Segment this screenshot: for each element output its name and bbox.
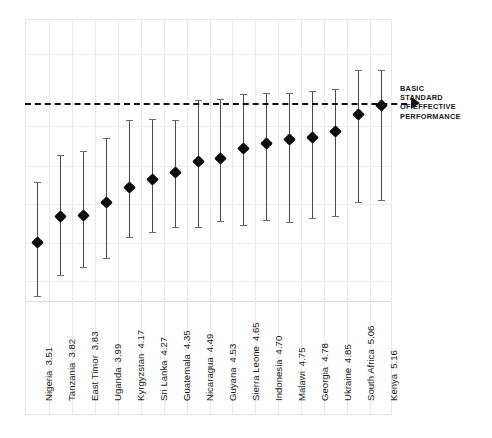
category-label-slot: Indonesia4.70 <box>255 308 278 414</box>
annotation-line-1: BASIC <box>400 84 492 93</box>
error-bar-cap-bottom <box>57 275 64 276</box>
data-point-marker[interactable] <box>169 167 182 180</box>
annotation-line-3: OF EFFECTIVE <box>400 102 492 111</box>
data-point-marker[interactable] <box>192 155 205 168</box>
data-point-marker[interactable] <box>306 131 319 144</box>
error-bar <box>289 93 290 222</box>
error-bar-cap-bottom <box>355 202 362 203</box>
error-bar-cap-bottom <box>126 237 133 238</box>
category-label-slot: Guyana4.53 <box>210 308 233 414</box>
data-point-marker[interactable] <box>260 138 273 151</box>
category-label-slot: Nigeria3.51 <box>26 308 49 414</box>
error-bar-cap-top <box>80 151 87 152</box>
reference-line <box>25 103 417 105</box>
category-label-slot: South Africa5.06 <box>347 308 370 414</box>
reference-line-annotation: BASIC STANDARD OF EFFECTIVE PERFORMANCE <box>400 84 492 121</box>
data-point-marker[interactable] <box>352 108 365 121</box>
data-point-marker[interactable] <box>238 142 251 155</box>
category-label-slot: Sri Lanka4.27 <box>141 308 164 414</box>
data-point-marker[interactable] <box>375 100 388 113</box>
error-bar <box>335 89 336 215</box>
category-label-slot: East Timor3.83 <box>72 308 95 414</box>
category-label-slot: Tanzania3.82 <box>49 308 72 414</box>
data-point-marker[interactable] <box>31 236 44 249</box>
error-bar-cap-bottom <box>195 227 202 228</box>
error-bar-cap-top <box>103 138 110 139</box>
category-label-slot: Malawi4.75 <box>278 308 301 414</box>
error-bar-cap-bottom <box>172 227 179 228</box>
error-bar-cap-bottom <box>149 232 156 233</box>
annotation-line-4: PERFORMANCE <box>400 112 492 121</box>
error-bar <box>243 94 244 225</box>
error-bar-cap-top <box>263 93 270 94</box>
category-label: Kenya5.16 <box>387 350 398 401</box>
error-bar <box>358 70 359 201</box>
category-label-slot: Guatemala4.35 <box>164 308 187 414</box>
error-bar-cap-top <box>34 182 41 183</box>
category-label-slot: Kyrgyzstan4.17 <box>118 308 141 414</box>
data-point-marker[interactable] <box>54 210 67 223</box>
error-bar-cap-bottom <box>34 296 41 297</box>
error-bar-cap-top <box>172 120 179 121</box>
category-label-slot: Nicaragua4.49 <box>187 308 210 414</box>
error-bar-cap-bottom <box>286 222 293 223</box>
error-bar-cap-top <box>217 99 224 100</box>
data-point-marker[interactable] <box>100 196 113 209</box>
error-bar-cap-bottom <box>378 200 385 201</box>
error-bar-cap-top <box>57 155 64 156</box>
annotation-line-2: STANDARD <box>400 93 492 102</box>
error-bar <box>129 120 130 237</box>
category-label-slot: Uganda3.99 <box>95 308 118 414</box>
data-point-marker[interactable] <box>123 181 136 194</box>
error-bar-cap-top <box>309 91 316 92</box>
error-bar-cap-bottom <box>240 225 247 226</box>
error-bar <box>266 93 267 220</box>
error-bar-cap-top <box>126 120 133 121</box>
data-point-marker[interactable] <box>215 152 228 165</box>
error-bar-cap-top <box>286 93 293 94</box>
data-point-marker[interactable] <box>146 173 159 186</box>
data-point-marker[interactable] <box>283 133 296 146</box>
error-bar-cap-top <box>240 94 247 95</box>
error-bar-cap-top <box>149 119 156 120</box>
error-bar-cap-top <box>378 70 385 71</box>
error-bar-cap-bottom <box>263 220 270 221</box>
error-bar <box>312 91 313 218</box>
category-label-slot: Sierra Leone4.65 <box>232 308 255 414</box>
error-bar-cap-bottom <box>103 258 110 259</box>
error-bar-cap-top <box>355 70 362 71</box>
plot-area: Nigeria3.51Tanzania3.82East Timor3.83Uga… <box>25 19 392 415</box>
category-value: 5.16 <box>387 350 398 369</box>
category-label-slot: Kenya5.16 <box>370 308 393 414</box>
error-bar-cap-bottom <box>217 221 224 222</box>
error-bar-cap-bottom <box>309 218 316 219</box>
error-bar-cap-bottom <box>332 216 339 217</box>
error-bar <box>381 70 382 201</box>
category-label-slot: Georgia4.78 <box>301 308 324 414</box>
data-point-marker[interactable] <box>77 209 90 222</box>
error-bar-cap-top <box>332 89 339 90</box>
category-label-slot: Ukraine4.85 <box>324 308 347 414</box>
category-name: Kenya <box>387 374 398 401</box>
data-point-marker[interactable] <box>329 125 342 138</box>
error-bar-cap-bottom <box>80 267 87 268</box>
error-bar-cap-top <box>195 100 202 101</box>
chart-figure: Nigeria3.51Tanzania3.82East Timor3.83Uga… <box>0 0 492 438</box>
